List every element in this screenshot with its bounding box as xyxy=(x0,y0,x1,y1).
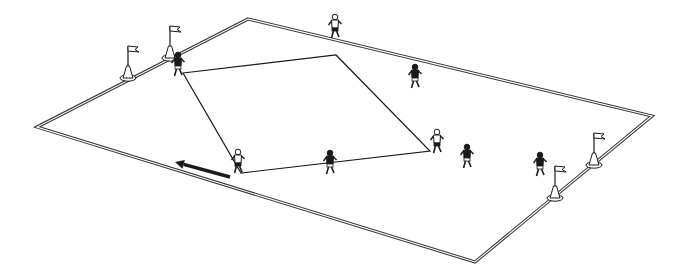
player-icon xyxy=(534,152,547,176)
drill-diagram: Isometric drill diagram: rectangular pit… xyxy=(0,0,690,278)
corner-flag-icon xyxy=(547,166,566,201)
pitch-boundary xyxy=(37,19,652,262)
player-icon xyxy=(431,129,444,153)
movement-arrow xyxy=(175,160,230,177)
pass-square xyxy=(183,55,430,173)
corner-flag-icon xyxy=(586,133,605,168)
player-icon xyxy=(409,64,422,88)
drill-canvas xyxy=(0,0,690,278)
player-icon xyxy=(329,14,342,38)
players xyxy=(172,14,547,176)
player-icon xyxy=(461,144,474,168)
